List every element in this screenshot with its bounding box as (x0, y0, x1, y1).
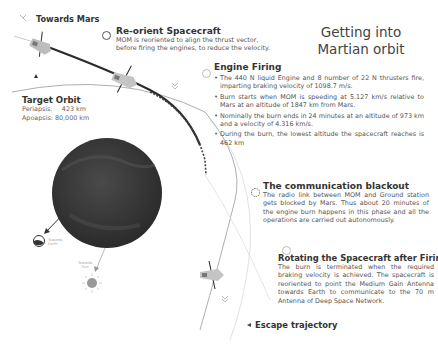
towards-mars-label: Towards Mars (36, 14, 99, 24)
rotating-heading: Rotating the Spacecraft after Firing (278, 253, 434, 263)
target-orbit-heading: Target Orbit (22, 95, 89, 105)
reorient-body: MOM is reoriented to align the thrust ve… (116, 36, 276, 53)
bullet-item: During the burn, the lowest altitude the… (214, 130, 424, 147)
diagram-title: Getting into Martian orbit (296, 24, 426, 58)
towards-sun-label: Towards Sun (78, 261, 93, 270)
engine-firing-section: Engine Firing The 440 N liquid Engine an… (214, 62, 424, 149)
step-circle-icon (202, 69, 211, 78)
bullet-item: Burn starts when MOM is speeding at 5.12… (214, 93, 424, 110)
bullet-item: The 440 N liquid Engine and 8 number of … (214, 74, 424, 91)
towards-earth-label: Towards Earth (48, 238, 63, 247)
spacecraft-icon (27, 29, 57, 60)
blackout-heading: The communication blackout (263, 181, 429, 191)
burn-segment (150, 92, 206, 175)
mars-planet (52, 138, 162, 248)
reorient-heading: Re-orient Spacecraft (116, 26, 306, 36)
bullet-item: Nominally the burn ends in 24 minutes at… (214, 112, 424, 129)
engine-firing-heading: Engine Firing (214, 62, 424, 72)
escape-trajectory-label: Escape trajectory (255, 320, 338, 330)
spacecraft-icon (200, 261, 224, 289)
blackout-step-marker (251, 182, 260, 201)
reorient-step-marker (102, 25, 111, 44)
sun-icon (82, 273, 102, 293)
blackout-body: The radio link between MOM and Ground st… (263, 191, 429, 225)
thrust-icon (222, 296, 228, 302)
rotating-section: Rotating the Spacecraft after Firing The… (278, 253, 434, 305)
reorient-section: Re-orient Spacecraft MOM is reoriented t… (116, 26, 306, 53)
escape-marker (247, 323, 251, 327)
periapsis-row: Periapsis:423 km (22, 105, 89, 114)
engine-firing-bullets: The 440 N liquid Engine and 8 number of … (214, 74, 424, 147)
spacecraft-icon (108, 61, 143, 98)
thrust-icon (172, 83, 178, 89)
thrust-icon (20, 15, 26, 21)
engine-step-marker (202, 63, 211, 82)
apoapsis-row: Apoapsis: 80,000 km (22, 114, 89, 123)
step-circle-icon (102, 31, 111, 40)
escape-trajectory-path (205, 175, 270, 300)
orbit-marker (34, 74, 38, 78)
dotted-circle-icon (251, 188, 260, 197)
target-orbit-section: Target Orbit Periapsis:423 km Apoapsis: … (22, 95, 89, 123)
blackout-section: The communication blackout The radio lin… (263, 181, 429, 225)
rotating-body: The burn is terminated when the required… (278, 263, 434, 305)
